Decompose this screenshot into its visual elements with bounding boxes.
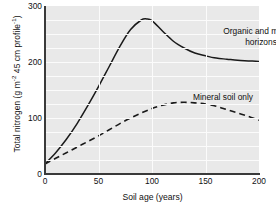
y-axis-ticks: 300 200 100 0 — [14, 0, 42, 180]
x-axis-label: Soil age (years) — [45, 192, 260, 202]
gridline-vertical — [152, 6, 153, 174]
plot-area: Organic and mineral horizons Mineral soi… — [45, 6, 259, 174]
x-tick-150: 150 — [191, 176, 221, 186]
x-tick-200: 200 — [244, 176, 274, 186]
y-axis-spine — [44, 6, 46, 175]
series-annotation-mineral-soil-only: Mineral soil only — [173, 92, 273, 103]
y-tick-200: 200 — [18, 57, 42, 67]
x-tick-0: 0 — [30, 176, 60, 186]
x-tick-100: 100 — [137, 176, 167, 186]
y-tick-100: 100 — [18, 113, 42, 123]
x-tick-50: 50 — [84, 176, 114, 186]
series-annotation-organic-and-mineral-horizons: Organic and mineral horizons — [205, 26, 276, 47]
gridline-vertical — [99, 6, 100, 174]
y-tick-300: 300 — [18, 1, 42, 11]
x-axis-spine — [44, 173, 260, 175]
chart-figure: Total nitrogen (g m-2 45 cm profile-1) 3… — [0, 0, 276, 209]
